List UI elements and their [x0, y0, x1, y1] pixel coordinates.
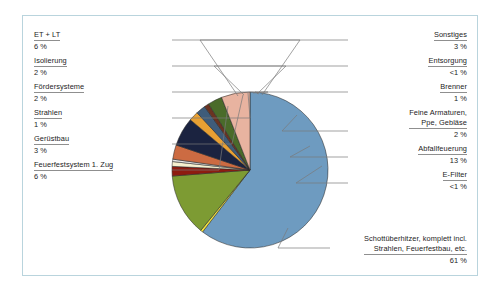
callout-sonstiges: Sonstiges 3 % — [434, 30, 467, 52]
callout-value: 2 % — [34, 67, 67, 77]
callout-label: Feine Armaturen, — [409, 108, 467, 118]
callout-foerdersysteme: Fördersysteme 2 % — [34, 82, 84, 104]
callout-value: 13 % — [418, 155, 467, 165]
callout-e-filter: E-Filter <1 % — [443, 170, 467, 192]
callout-label-line2: Ppe, Gebläse — [409, 118, 467, 129]
callout-value: 3 % — [434, 41, 467, 51]
callout-label: Schottüberhitzer, komplett incl. — [364, 234, 467, 244]
callout-label: ET + LT — [34, 30, 60, 41]
callout-label: Isolierung — [34, 56, 67, 67]
callout-feine-armaturen: Feine Armaturen, Ppe, Gebläse 2 % — [409, 108, 467, 139]
callout-strahlen: Strahlen 1 % — [34, 108, 62, 130]
callout-value: 1 % — [34, 119, 62, 129]
callout-label-line2: Strahlen, Feuerfestbau, etc. — [364, 244, 467, 255]
callout-value: 61 % — [364, 255, 467, 265]
callout-value: 2 % — [409, 129, 467, 139]
callout-value: 3 % — [34, 145, 69, 155]
callout-abfallfeuerung: Abfallfeuerung 13 % — [418, 144, 467, 166]
chart-figure: ET + LT 6 % Isolierung 2 % Fördersysteme… — [0, 0, 501, 294]
callout-value: <1 % — [443, 181, 467, 191]
callout-label: Strahlen — [34, 108, 62, 119]
callout-value: 2 % — [34, 93, 84, 103]
callout-label: Feuerfestsystem 1. Zug — [34, 160, 113, 171]
callout-schottueberhitzer: Schottüberhitzer, komplett incl. Strahle… — [364, 234, 467, 265]
callout-et-lt: ET + LT 6 % — [34, 30, 60, 52]
callout-label: Sonstiges — [434, 30, 467, 41]
callout-value: 6 % — [34, 41, 60, 51]
callout-geruestbau: Gerüstbau 3 % — [34, 134, 69, 156]
callout-label: Entsorgung — [428, 56, 467, 67]
callout-value: 6 % — [34, 171, 113, 181]
callout-isolierung: Isolierung 2 % — [34, 56, 67, 78]
callout-label: Gerüstbau — [34, 134, 69, 145]
callout-feuerfestsystem-1-zug: Feuerfestsystem 1. Zug 6 % — [34, 160, 113, 182]
callout-label: Fördersysteme — [34, 82, 84, 93]
callout-label: Brenner — [440, 82, 467, 93]
callout-value: <1 % — [428, 67, 467, 77]
callout-brenner: Brenner 1 % — [440, 82, 467, 104]
callout-entsorgung: Entsorgung <1 % — [428, 56, 467, 78]
callout-value: 1 % — [440, 93, 467, 103]
callout-label: E-Filter — [443, 170, 467, 181]
callout-label: Abfallfeuerung — [418, 144, 467, 155]
